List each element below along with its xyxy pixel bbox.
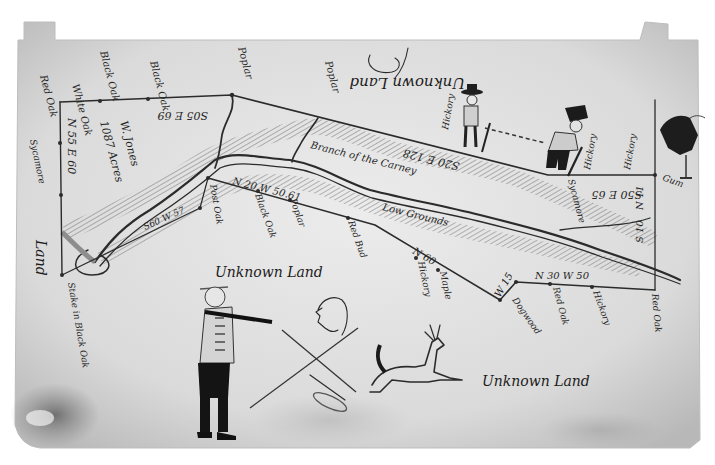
call-right-vertical-upper: N 11 bbox=[634, 185, 645, 211]
label-unknown-land-top: Unknown Land bbox=[349, 74, 465, 92]
survey-map: Unknown Land Unknown Land Unknown Land L… bbox=[0, 0, 715, 465]
label-left-land: Land bbox=[33, 239, 49, 276]
call-right-vertical: S 10 bbox=[634, 220, 645, 243]
label-unknown-land-bottom: Unknown Land bbox=[482, 373, 590, 389]
label-unknown-land-middle: Unknown Land bbox=[215, 264, 323, 280]
call-left-vertical: N 55 E 60 bbox=[65, 117, 78, 174]
call-lower-right-line: N 30 W 50 bbox=[534, 270, 590, 281]
